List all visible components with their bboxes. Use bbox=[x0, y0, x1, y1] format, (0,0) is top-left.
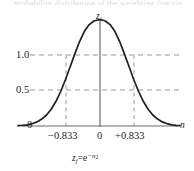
x-tick-label-neg-0.833: −0.833 bbox=[48, 130, 78, 141]
equation-equals-e: =e bbox=[78, 153, 88, 163]
equation-caption: zj=e−n2 bbox=[72, 152, 98, 165]
x-tick-label-0: 0 bbox=[97, 130, 102, 141]
y-axis-label: zj bbox=[96, 11, 102, 24]
x-axis-label: n bbox=[180, 120, 185, 130]
y-tick-label-0: 0 bbox=[27, 119, 32, 130]
curve-gaussian bbox=[18, 20, 180, 126]
equation-exponent-power: 2 bbox=[95, 154, 98, 160]
x-tick-label-pos-0.833: +0.833 bbox=[115, 130, 145, 141]
figure-gaussian-weighting-function: probability distribution of the weightin… bbox=[0, 0, 194, 171]
y-tick-label-1.0: 1.0 bbox=[16, 49, 29, 60]
y-tick-label-0.5: 0.5 bbox=[16, 84, 29, 95]
y-axis-label-subscript: j bbox=[100, 15, 102, 23]
